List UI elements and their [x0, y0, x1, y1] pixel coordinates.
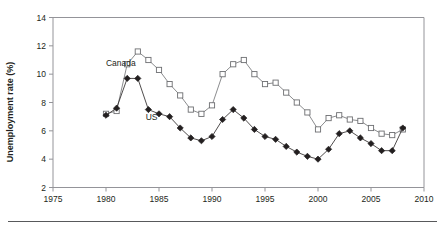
- x-tick-label: 1990: [203, 194, 222, 204]
- unemployment-rate-chart-figure: 2468101214 19751980198519901995200020052…: [0, 0, 445, 229]
- y-tick-label: 14: [37, 13, 47, 23]
- data-point: [390, 132, 395, 137]
- data-point: [273, 136, 279, 142]
- data-point: [326, 115, 331, 120]
- data-point: [368, 140, 374, 146]
- y-tick-label: 12: [37, 41, 47, 51]
- data-point: [273, 80, 278, 85]
- data-point: [305, 110, 310, 115]
- data-point: [304, 153, 310, 159]
- data-point: [315, 127, 320, 132]
- data-point: [156, 67, 161, 72]
- data-point: [231, 62, 236, 67]
- data-point: [167, 81, 172, 86]
- data-point: [209, 133, 215, 139]
- plot-frame: [53, 18, 424, 188]
- data-point: [252, 72, 257, 77]
- data-point: [357, 135, 363, 141]
- y-tick-label: 8: [41, 98, 46, 108]
- data-point: [199, 111, 204, 116]
- data-point: [347, 117, 352, 122]
- data-point: [188, 107, 193, 112]
- x-tick-label: 1985: [150, 194, 169, 204]
- data-point: [135, 49, 140, 54]
- series-annotation-canada: Canada: [106, 58, 136, 68]
- x-axis-ticks: 19751980198519901995200020052010: [44, 188, 434, 204]
- series-canada: [103, 49, 405, 138]
- data-point: [336, 131, 342, 137]
- data-point: [294, 149, 300, 155]
- data-point: [209, 103, 214, 108]
- data-point: [146, 57, 151, 62]
- data-point: [220, 72, 225, 77]
- data-point: [241, 57, 246, 62]
- x-tick-label: 1975: [44, 194, 63, 204]
- data-point: [337, 113, 342, 118]
- y-axis-ticks: 2468101214: [37, 13, 53, 193]
- unemployment-rate-line-chart: 2468101214 19751980198519901995200020052…: [0, 0, 445, 229]
- series-annotation-us: US: [146, 112, 158, 122]
- data-point: [389, 148, 395, 154]
- data-point: [379, 148, 385, 154]
- y-tick-label: 2: [41, 183, 46, 193]
- y-tick-label: 4: [41, 154, 46, 164]
- series-layer: [103, 49, 406, 162]
- data-point: [135, 75, 141, 81]
- data-point: [358, 118, 363, 123]
- data-point: [262, 81, 267, 86]
- data-point: [124, 75, 130, 81]
- data-point: [294, 100, 299, 105]
- y-tick-label: 6: [41, 126, 46, 136]
- x-tick-label: 2000: [309, 194, 328, 204]
- data-point: [283, 143, 289, 149]
- x-tick-label: 1995: [256, 194, 275, 204]
- data-point: [368, 125, 373, 130]
- x-tick-label: 1980: [97, 194, 116, 204]
- x-tick-label: 2010: [415, 194, 434, 204]
- x-tick-label: 2005: [362, 194, 381, 204]
- y-tick-label: 10: [37, 69, 47, 79]
- y-axis-title: Unemployment rate (%): [5, 62, 15, 163]
- data-point: [347, 128, 353, 134]
- data-point: [198, 138, 204, 144]
- data-point: [178, 93, 183, 98]
- data-point: [379, 131, 384, 136]
- data-point: [262, 133, 268, 139]
- data-point: [284, 90, 289, 95]
